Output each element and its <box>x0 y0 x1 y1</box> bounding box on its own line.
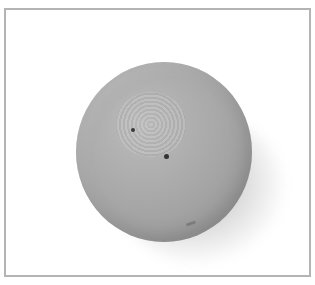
orange-fruit <box>76 62 252 242</box>
peel-blemish <box>186 220 196 226</box>
peel-texture <box>116 92 186 157</box>
stem-end-dot <box>164 154 169 159</box>
photo-frame <box>4 8 311 277</box>
peel-spot <box>131 128 135 132</box>
